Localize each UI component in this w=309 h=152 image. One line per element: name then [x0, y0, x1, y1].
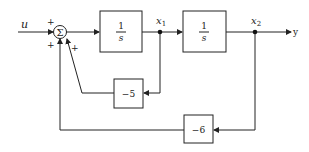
outer-feedback-line: [214, 32, 255, 130]
sum-symbol: Σ: [56, 27, 63, 38]
x2-node: [253, 30, 258, 35]
sign-plus-bottom-right: +: [71, 43, 79, 53]
output-label: y: [292, 27, 299, 37]
x1-node: [158, 30, 163, 35]
sign-plus-top: +: [47, 17, 55, 27]
inner-feedback-line: [144, 32, 160, 93]
gain-outer-label: −6: [192, 125, 206, 135]
gain-inner-label: −5: [122, 89, 136, 99]
integrator-2-numerator: 1: [201, 21, 207, 31]
block-diagram: Σ u + + + 1 s 1 s −5 −6 x1 x2 y: [0, 0, 309, 152]
x1-label: x1: [156, 15, 166, 28]
integrator-1-denominator: s: [119, 33, 124, 43]
integrator-1-numerator: 1: [118, 21, 124, 31]
input-label: u: [21, 18, 28, 31]
integrator-2-denominator: s: [202, 33, 207, 43]
outer-return-line: [60, 39, 184, 130]
x2-label: x2: [251, 15, 261, 28]
sign-plus-bottom-left: +: [47, 40, 55, 50]
